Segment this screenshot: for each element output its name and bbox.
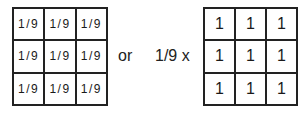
kernel-cell: 1 <box>266 73 297 105</box>
kernel-cell: 1/9 <box>76 73 107 105</box>
kernel-cell: 1 <box>204 40 235 72</box>
kernel-cell: 1/9 <box>13 40 44 72</box>
kernel-cell: 1 <box>266 40 297 72</box>
kernel-cell: 1 <box>235 40 266 72</box>
kernel-cell: 1/9 <box>13 73 44 105</box>
kernel-cell: 1/9 <box>44 73 75 105</box>
connector-text: or <box>118 47 132 65</box>
kernel-cell: 1/9 <box>44 40 75 72</box>
kernel-cell: 1/9 <box>44 8 75 40</box>
kernel-cell: 1 <box>235 73 266 105</box>
averaging-kernel-fractional: 1/9 1/9 1/9 1/9 1/9 1/9 1/9 1/9 1/9 <box>12 7 108 106</box>
kernel-cell: 1 <box>266 8 297 40</box>
kernel-cell: 1/9 <box>76 40 107 72</box>
kernel-cell: 1 <box>204 8 235 40</box>
kernel-cell: 1/9 <box>76 8 107 40</box>
scale-factor-text: 1/9 x <box>155 47 190 65</box>
kernel-cell: 1 <box>235 8 266 40</box>
kernel-cell: 1/9 <box>13 8 44 40</box>
averaging-kernel-ones: 1 1 1 1 1 1 1 1 1 <box>203 7 298 106</box>
kernel-cell: 1 <box>204 73 235 105</box>
